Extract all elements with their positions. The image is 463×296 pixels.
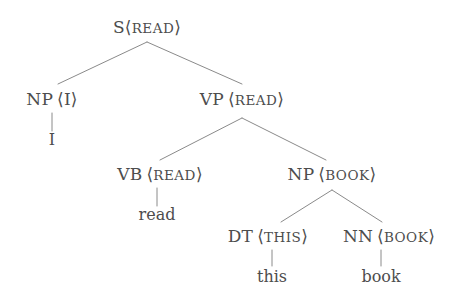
node-np-book-category: NP [288, 164, 315, 184]
node-vp-read-head: READ [235, 92, 278, 108]
node-vp-read-open-bracket: ⟨ [228, 89, 235, 109]
node-s-read-open-bracket: ⟨ [125, 17, 132, 37]
node-s-read-head: READ [132, 20, 175, 36]
node-vb-read-open-bracket: ⟨ [146, 164, 153, 184]
node-vb-read-close-bracket: ⟩ [196, 164, 203, 184]
edge-s-to-vp [147, 42, 242, 84]
node-dt-this-head: THIS [264, 229, 301, 245]
node-np-i-category: NP [26, 89, 53, 109]
node-s-read-close-bracket: ⟩ [174, 17, 181, 37]
node-vp-read-category: VP [200, 89, 224, 109]
node-np-book-open-bracket: ⟨ [318, 164, 325, 184]
edge-vp-to-np [242, 118, 326, 160]
edge-s-to-np [58, 42, 147, 84]
leaf-book: book [361, 269, 400, 285]
node-nn-book-head: BOOK [384, 229, 428, 245]
node-nn-book: NN⟨BOOK⟩ [343, 228, 435, 245]
node-np-i: NP⟨I⟩ [26, 91, 77, 108]
node-vp-read-close-bracket: ⟩ [277, 89, 284, 109]
node-np-book-close-bracket: ⟩ [370, 164, 377, 184]
leaf-i: I [49, 132, 55, 148]
node-vb-read-head: READ [153, 167, 196, 183]
node-np-book: NP⟨BOOK⟩ [288, 166, 377, 183]
node-s-read: S⟨READ⟩ [113, 19, 181, 36]
leaf-read: read [139, 207, 176, 223]
edge-np-to-dt [281, 190, 332, 222]
node-np-i-open-bracket: ⟨ [57, 89, 64, 109]
leaf-this: this [257, 269, 287, 285]
node-dt-this-close-bracket: ⟩ [301, 226, 308, 246]
node-s-read-category: S [113, 17, 125, 37]
parse-tree-figure: S⟨READ⟩ NP⟨I⟩ VP⟨READ⟩ I VB⟨READ⟩ NP⟨BOO… [0, 0, 463, 296]
node-nn-book-category: NN [343, 226, 373, 246]
node-dt-this-category: DT [228, 226, 253, 246]
edge-np-to-nn [332, 190, 382, 222]
node-np-i-close-bracket: ⟩ [71, 89, 78, 109]
node-vb-read: VB⟨READ⟩ [117, 166, 202, 183]
node-dt-this: DT⟨THIS⟩ [228, 228, 308, 245]
node-nn-book-open-bracket: ⟨ [377, 226, 384, 246]
node-np-book-head: BOOK [325, 167, 369, 183]
node-vb-read-category: VB [117, 164, 142, 184]
node-nn-book-close-bracket: ⟩ [428, 226, 435, 246]
edge-vp-to-vb [160, 118, 242, 160]
node-vp-read: VP⟨READ⟩ [200, 91, 284, 108]
tree-edges [0, 0, 463, 296]
